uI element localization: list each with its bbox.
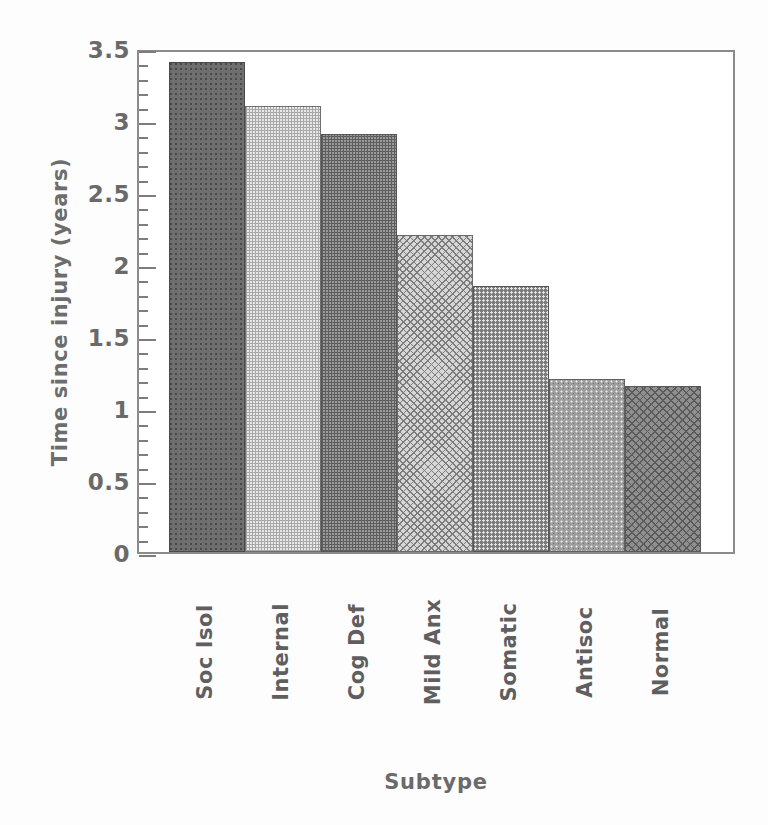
bar-normal — [625, 386, 701, 552]
y-minor-tick — [139, 65, 148, 67]
bar-cog-def — [321, 134, 397, 552]
y-major-tick — [139, 483, 156, 485]
y-minor-tick — [139, 469, 148, 471]
y-minor-tick — [139, 253, 148, 255]
y-minor-tick — [139, 397, 148, 399]
y-major-tick — [139, 195, 156, 197]
y-minor-tick — [139, 454, 148, 456]
plot-area — [137, 50, 735, 554]
y-major-tick — [139, 555, 156, 557]
x-tick-cell: Internal — [243, 562, 319, 752]
y-minor-tick — [139, 310, 148, 312]
x-tick-label: Antisoc — [573, 606, 597, 697]
y-minor-tick — [139, 526, 148, 528]
bar-mild-anx — [397, 235, 473, 552]
y-minor-tick — [139, 353, 148, 355]
y-minor-tick — [139, 80, 148, 82]
x-tick-label: Cog Def — [345, 604, 369, 701]
y-minor-tick — [139, 94, 148, 96]
y-tick-label: 2 — [52, 253, 130, 279]
bar-soc-isol — [169, 62, 245, 552]
y-major-tick — [139, 123, 156, 125]
y-minor-tick — [139, 166, 148, 168]
y-major-tick — [139, 339, 156, 341]
bar-chart-figure: Time since injury (years) 00.511.522.533… — [0, 0, 768, 825]
y-minor-tick — [139, 325, 148, 327]
y-minor-tick — [139, 382, 148, 384]
x-tick-label: Internal — [269, 603, 293, 701]
x-tick-label: Mild Anx — [421, 599, 445, 705]
y-tick-label: 0 — [52, 541, 130, 567]
bar-somatic — [473, 286, 549, 552]
y-tick-label: 1 — [52, 397, 130, 423]
y-minor-tick — [139, 497, 148, 499]
y-tick-label: 3 — [52, 109, 130, 135]
y-tick-label: 0.5 — [52, 469, 130, 495]
y-minor-tick — [139, 181, 148, 183]
x-tick-cell: Mild Anx — [395, 562, 471, 752]
x-axis-title: Subtype — [137, 770, 735, 794]
x-tick-label: Normal — [649, 608, 673, 697]
x-tick-cell: Cog Def — [319, 562, 395, 752]
y-major-tick — [139, 267, 156, 269]
y-minor-tick — [139, 296, 148, 298]
y-major-tick — [139, 51, 156, 53]
x-tick-cell: Normal — [623, 562, 699, 752]
x-axis-tick-labels: Soc IsolInternalCog DefMild AnxSomaticAn… — [167, 562, 699, 752]
y-minor-tick — [139, 238, 148, 240]
y-minor-tick — [139, 209, 148, 211]
bar-internal — [245, 106, 321, 552]
x-tick-label: Somatic — [497, 603, 521, 702]
y-axis-tick-labels: 00.511.522.533.5 — [52, 50, 130, 554]
x-tick-label: Soc Isol — [193, 604, 217, 699]
y-minor-tick — [139, 224, 148, 226]
y-major-tick — [139, 411, 156, 413]
y-tick-label: 2.5 — [52, 181, 130, 207]
x-tick-cell: Somatic — [471, 562, 547, 752]
bar-series — [169, 52, 701, 552]
y-minor-tick — [139, 425, 148, 427]
y-minor-tick — [139, 541, 148, 543]
y-minor-tick — [139, 109, 148, 111]
y-tick-label: 3.5 — [52, 37, 130, 63]
y-minor-tick — [139, 368, 148, 370]
bar-antisoc — [549, 379, 625, 552]
y-minor-tick — [139, 512, 148, 514]
y-minor-tick — [139, 137, 148, 139]
y-minor-tick — [139, 152, 148, 154]
y-tick-label: 1.5 — [52, 325, 130, 351]
y-minor-tick — [139, 281, 148, 283]
x-tick-cell: Antisoc — [547, 562, 623, 752]
y-minor-tick — [139, 440, 148, 442]
x-tick-cell: Soc Isol — [167, 562, 243, 752]
